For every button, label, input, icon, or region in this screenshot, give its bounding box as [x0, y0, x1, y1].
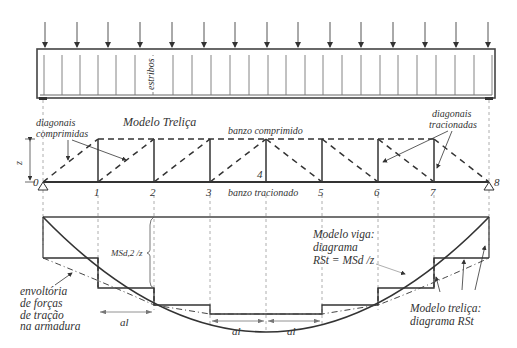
beam-model-label-2: diagrama: [313, 241, 358, 254]
node-label: 4: [257, 168, 263, 180]
truss-model-label: Modelo treliça:: [409, 302, 481, 315]
node-label: 6: [374, 186, 380, 198]
pointer-arrow: [475, 246, 485, 290]
node-label: 2: [150, 186, 156, 198]
stirrups-label: estribos: [145, 58, 156, 90]
pointer-arrow: [383, 131, 448, 162]
compressed-diagonals-label: diagonais: [36, 117, 76, 128]
top-chord-label: banzo comprimido: [228, 125, 303, 136]
pointer-arrow: [462, 260, 464, 290]
node-label: 0: [33, 176, 39, 188]
node-label: 1: [94, 186, 100, 198]
stirrups: [44, 55, 492, 95]
node-label: 7: [430, 186, 436, 198]
truss-title: Modelo Treliça: [122, 115, 196, 129]
load-arrows: [45, 22, 488, 47]
pointer-arrow: [376, 264, 405, 274]
node-label: 8: [494, 176, 500, 188]
truss-model-label-2: diagrama RSt: [410, 315, 474, 328]
beam-outline: [37, 49, 495, 98]
compressed-diagonals-label-2: comprimidas: [36, 128, 88, 139]
beam-model-label-3: RSt = MSd /z: [312, 254, 375, 266]
right-support-block: [485, 97, 493, 100]
lever-arm-label: z: [13, 161, 24, 166]
truss-verticals: [98, 139, 434, 182]
truss-model-diagram: estribos Modelo Treliça banzo comprimido: [0, 0, 517, 348]
tension-diagonals-label-2: tracionadas: [429, 119, 477, 130]
shift-label: al: [232, 325, 241, 337]
left-support-block: [39, 97, 47, 100]
envelope-label: envoltória: [20, 285, 68, 297]
left-support-icon: [38, 182, 48, 190]
right-support-icon: [484, 182, 494, 190]
shift-label: al: [120, 316, 129, 328]
shift-label: al: [287, 325, 296, 337]
beam-model-label: Modelo viga:: [312, 228, 375, 241]
envelope-label-4: na armadura: [20, 320, 81, 332]
tension-diagonals-label: diagonais: [432, 108, 472, 119]
pointer-arrow: [436, 277, 440, 292]
node-label: 5: [318, 186, 324, 198]
pointer-arrow: [437, 131, 452, 168]
node-label: 3: [205, 186, 212, 198]
bottom-chord-label: banzo tracionado: [228, 187, 298, 198]
pointer-arrow: [72, 140, 126, 160]
brace: [147, 217, 154, 288]
pointer-arrow: [55, 273, 72, 285]
force-label: MSd,2 /z: [110, 248, 143, 258]
